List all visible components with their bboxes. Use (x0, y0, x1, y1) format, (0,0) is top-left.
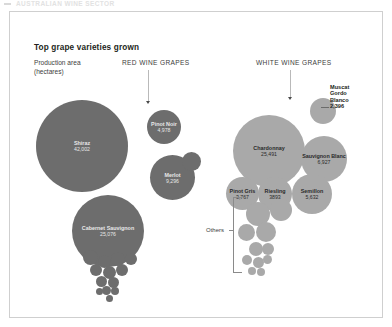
red-wine-pointer-line (148, 70, 149, 102)
bubble-value: 4,978 (158, 127, 171, 133)
section-label-white-wine: WHITE WINE GRAPES (256, 59, 332, 66)
bubble-unlabelled (96, 288, 103, 295)
bubble-value: 6,927 (318, 159, 331, 165)
bubble-unlabelled (257, 268, 265, 276)
bubble-unlabelled (106, 295, 113, 302)
legend-line-1: Production area (34, 59, 81, 68)
bubble-unlabelled (249, 242, 263, 256)
bubble-unlabelled (270, 199, 292, 221)
bubble-unlabelled (262, 243, 274, 255)
callout-leader-line (321, 107, 329, 108)
bubble-semillon: Semillon5,632 (292, 174, 332, 214)
bubble-value: 25,076 (100, 231, 116, 237)
bubble-unlabelled (90, 264, 102, 276)
page-title: Top grape varieties grown (34, 43, 139, 52)
bubble-unlabelled (102, 286, 111, 295)
legend-production-area: Production area (hectares) (34, 59, 81, 76)
bubble-value: 9,296 (166, 178, 179, 184)
masthead-title: AUSTRALIAN WINE SECTOR (16, 0, 115, 7)
others-bracket (233, 197, 242, 273)
callout-line-2: Gordo (330, 90, 349, 96)
bubble-value: 5,632 (306, 194, 319, 200)
white-wine-arrow-icon (288, 97, 292, 100)
masthead-tick (4, 3, 11, 5)
bubble-value: 42,002 (74, 146, 90, 152)
bubble-unlabelled (125, 253, 137, 265)
bubble-shiraz: Shiraz42,002 (36, 100, 128, 192)
bubble-value: 25,491 (261, 151, 277, 157)
bubble-unlabelled (111, 287, 119, 295)
bubble-unlabelled (256, 222, 276, 242)
bubble-pinot-noir: Pinot Noir4,978 (147, 110, 181, 144)
bubble-unlabelled (182, 152, 201, 171)
red-wine-arrow-icon (146, 101, 150, 104)
bubble-unlabelled (83, 250, 98, 265)
bubble-unlabelled (242, 255, 252, 265)
callout-muscat-gordo-blanco: Muscat Gordo Blanco 2,396 (330, 84, 349, 110)
bubble-unlabelled (116, 264, 128, 276)
bubble-unlabelled (263, 255, 272, 264)
others-label: Others (206, 227, 224, 233)
masthead-strip: AUSTRALIAN WINE SECTOR (0, 0, 392, 9)
infographic-panel: Top grape varieties grown Production are… (9, 11, 383, 318)
callout-value: 2,396 (330, 103, 349, 109)
legend-line-2: (hectares) (34, 68, 81, 77)
bubble-unlabelled (248, 267, 256, 275)
white-wine-pointer-line (290, 70, 291, 98)
others-bracket-tick (229, 230, 233, 231)
section-label-red-wine: RED WINE GRAPES (122, 59, 190, 66)
